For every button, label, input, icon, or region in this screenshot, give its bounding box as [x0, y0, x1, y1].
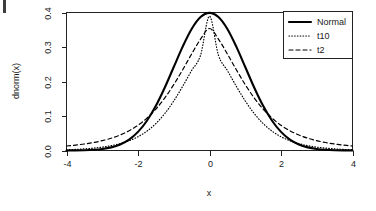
y-tick-label: 0.3: [43, 41, 53, 54]
x-axis-title: x: [207, 188, 212, 198]
legend-label-t2: t2: [317, 45, 325, 55]
legend: Normalt10t2: [284, 12, 353, 59]
legend-label-t10: t10: [317, 31, 330, 41]
x-tick-label: 4: [351, 159, 356, 169]
y-tick-label: 0.0: [43, 145, 53, 158]
x-tick-label: -4: [63, 159, 71, 169]
density-plot-figure: -4-2024 0.00.10.20.30.4 x dnorm(x) Norma…: [0, 0, 376, 211]
y-axis-title: dnorm(x): [11, 63, 21, 99]
y-tick-label: 0.2: [43, 76, 53, 89]
y-tick-label: 0.1: [43, 110, 53, 123]
x-axis-tick-labels: -4-2024: [63, 159, 356, 169]
x-tick-label: 0: [208, 159, 213, 169]
x-tick-label: 2: [279, 159, 284, 169]
legend-label-normal: Normal: [317, 17, 346, 27]
y-tick-label: 0.4: [43, 7, 53, 20]
plot-canvas: -4-2024 0.00.10.20.30.4 x dnorm(x) Norma…: [0, 0, 376, 211]
y-axis-tick-labels: 0.00.10.20.30.4: [43, 7, 53, 158]
scan-artifact-mark: [3, 0, 6, 13]
x-tick-label: -2: [134, 159, 142, 169]
y-axis-ticks: [62, 14, 67, 152]
x-axis-ticks: [68, 151, 354, 156]
